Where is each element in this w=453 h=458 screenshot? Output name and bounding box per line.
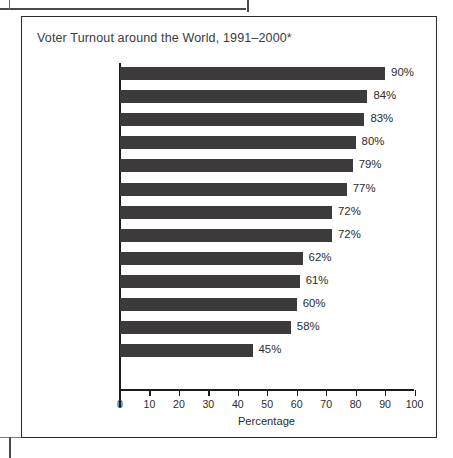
x-axis-tick-mark [297,390,298,396]
bar-value-label: 72% [338,228,361,240]
x-axis-tick-label: 60 [282,398,312,410]
x-axis-tick-mark [385,390,386,396]
bar [120,275,300,288]
x-axis-tick-mark [179,390,180,396]
x-axis-tick-mark [238,390,239,396]
x-axis-tick-label: 100 [400,398,430,410]
bar [120,136,356,149]
bar-value-label: 61% [306,274,329,286]
bar [120,321,291,334]
x-axis-tick-mark [415,390,416,396]
bar-value-label: 79% [359,158,382,170]
bar-value-label: 90% [391,66,414,78]
page-vertical-rule-bottom-left [9,437,11,458]
x-axis-tick-mark [120,390,121,396]
page-vertical-rule-top-left [9,0,10,10]
figure-container: Voter Turnout around the World, 1991–200… [21,16,437,438]
bar-value-label: 45% [259,343,282,355]
bar-value-label: 84% [373,89,396,101]
x-axis-tick-label: 0 [105,398,135,410]
x-axis-tick-label: 30 [193,398,223,410]
bar [120,183,347,196]
bar [120,67,385,80]
x-axis-tick-mark [149,390,150,396]
bar [120,90,367,103]
bar-value-label: 62% [309,251,332,263]
bar [120,344,253,357]
bar [120,252,303,265]
x-axis-title: Percentage [119,415,414,427]
x-axis-tick-label: 70 [311,398,341,410]
bar-value-label: 83% [370,112,393,124]
bar-value-label: 80% [362,135,385,147]
bar [120,159,353,172]
x-axis-tick-label: 50 [252,398,282,410]
bar-value-label: 60% [303,297,326,309]
x-axis-tick-label: 80 [341,398,371,410]
bar-value-label: 58% [297,320,320,332]
bar-value-label: 72% [338,205,361,217]
x-axis-tick-label: 90 [370,398,400,410]
x-axis-tick-mark [326,390,327,396]
x-axis-tick-mark [356,390,357,396]
x-axis-tick-mark [267,390,268,396]
bar-value-label: 77% [353,182,376,194]
bar [120,206,332,219]
bar-chart-plot-area: Italy90%Sweden84%Australia83%Turkey80%Sp… [22,17,438,439]
bar [120,229,332,242]
bar [120,298,297,311]
bar [120,113,364,126]
page-vertical-tick-top-center [247,0,249,12]
x-axis-tick-label: 10 [134,398,164,410]
x-axis-tick-mark [208,390,209,396]
x-axis-tick-label: 20 [164,398,194,410]
x-axis-tick-label: 40 [223,398,253,410]
page-rule-top [0,8,246,10]
